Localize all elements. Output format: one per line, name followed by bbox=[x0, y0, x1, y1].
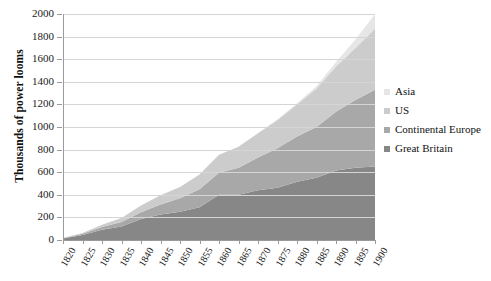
legend-swatch-icon bbox=[384, 146, 390, 152]
y-tick-mark bbox=[57, 150, 62, 151]
y-tick-label: 1400 bbox=[32, 76, 54, 87]
gridline bbox=[63, 82, 375, 83]
legend-item: Asia bbox=[384, 82, 489, 101]
legend-item-label: US bbox=[395, 105, 409, 116]
y-tick-label: 1600 bbox=[32, 53, 54, 64]
legend-swatch-icon bbox=[384, 127, 390, 133]
x-tick-mark bbox=[278, 240, 279, 244]
x-tick-label: 1825 bbox=[0, 246, 97, 281]
x-tick-mark bbox=[375, 240, 376, 244]
legend-item-label: Asia bbox=[395, 86, 415, 97]
plot-area bbox=[63, 14, 375, 240]
y-tick-label: 2000 bbox=[32, 8, 54, 19]
y-tick-label: 800 bbox=[38, 144, 55, 155]
x-tick-mark bbox=[122, 240, 123, 244]
legend-item: Great Britain bbox=[384, 139, 489, 158]
gridline bbox=[63, 150, 375, 151]
legend-item-label: Great Britain bbox=[395, 143, 453, 154]
x-tick-mark bbox=[102, 240, 103, 244]
x-tick-mark bbox=[219, 240, 220, 244]
y-tick-label: 1000 bbox=[32, 121, 54, 132]
gridline bbox=[63, 172, 375, 173]
chart-container: Thousands of power looms 020040060080010… bbox=[0, 0, 491, 281]
y-tick-mark bbox=[57, 127, 62, 128]
x-tick-mark bbox=[297, 240, 298, 244]
x-tick-mark bbox=[161, 240, 162, 244]
legend-swatch-icon bbox=[384, 108, 390, 114]
gridline bbox=[63, 104, 375, 105]
y-tick-mark bbox=[57, 82, 62, 83]
gridline bbox=[63, 195, 375, 196]
x-tick-mark bbox=[336, 240, 337, 244]
y-tick-mark bbox=[57, 217, 62, 218]
x-tick-mark bbox=[141, 240, 142, 244]
x-tick-mark bbox=[63, 240, 64, 244]
y-tick-label: 1200 bbox=[32, 98, 54, 109]
y-tick-mark bbox=[57, 104, 62, 105]
gridline bbox=[63, 37, 375, 38]
legend-item: US bbox=[384, 101, 489, 120]
y-tick-label: 400 bbox=[38, 189, 55, 200]
y-tick-mark bbox=[57, 37, 62, 38]
x-tick-mark bbox=[200, 240, 201, 244]
y-tick-mark bbox=[57, 240, 62, 241]
y-tick-label: 1800 bbox=[32, 31, 54, 42]
legend-item-label: Continental Europe bbox=[395, 124, 481, 135]
y-tick-label: 200 bbox=[38, 211, 55, 222]
gridline bbox=[63, 59, 375, 60]
x-tick-mark bbox=[239, 240, 240, 244]
y-tick-mark bbox=[57, 195, 62, 196]
y-tick-mark bbox=[57, 59, 62, 60]
y-tick-mark bbox=[57, 172, 62, 173]
y-axis-title: Thousands of power looms bbox=[13, 11, 25, 221]
y-tick-mark bbox=[57, 14, 62, 15]
legend-item: Continental Europe bbox=[384, 120, 489, 139]
x-tick-mark bbox=[83, 240, 84, 244]
gridline bbox=[63, 127, 375, 128]
legend-swatch-icon bbox=[384, 89, 390, 95]
y-tick-label: 0 bbox=[49, 234, 55, 245]
x-tick-label: 1820 bbox=[0, 246, 78, 281]
gridline bbox=[63, 217, 375, 218]
x-tick-mark bbox=[180, 240, 181, 244]
gridline bbox=[63, 14, 375, 15]
chart-legend: AsiaUSContinental EuropeGreat Britain bbox=[384, 82, 489, 158]
y-tick-label: 600 bbox=[38, 166, 55, 177]
x-tick-mark bbox=[317, 240, 318, 244]
y-axis-line bbox=[63, 14, 64, 241]
x-tick-mark bbox=[356, 240, 357, 244]
x-tick-mark bbox=[258, 240, 259, 244]
